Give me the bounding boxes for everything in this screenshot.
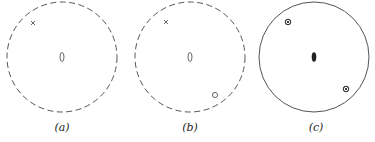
circled-cross-pole-icon — [343, 86, 349, 92]
cross-pole-icon — [164, 20, 168, 24]
open-circle-pole-icon — [212, 92, 217, 97]
primitive-circle-dashed — [135, 2, 245, 112]
circled-cross-pole-icon — [285, 19, 291, 25]
cross-pole-icon — [31, 21, 35, 25]
twofold-axis-filled-icon — [312, 52, 317, 62]
panel-c-label: (c) — [309, 121, 324, 134]
panel-b — [135, 2, 245, 112]
twofold-axis-icon — [188, 53, 192, 62]
panel-b-label: (b) — [182, 121, 198, 134]
twofold-axis-icon — [60, 53, 64, 62]
panel-a-label: (a) — [54, 121, 69, 134]
panel-a — [7, 2, 117, 112]
panel-c — [259, 2, 369, 112]
primitive-circle-dashed — [7, 2, 117, 112]
